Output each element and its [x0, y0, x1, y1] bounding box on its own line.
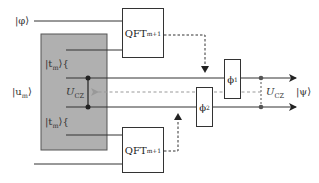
phi2-label: ϕ: [199, 102, 206, 113]
phi1-sub: 1: [234, 76, 238, 83]
ucz-inner-label: UCZ: [66, 87, 84, 101]
output-psi-label: |ψ⟩: [296, 87, 311, 97]
input-um-label: |um⟩: [12, 87, 32, 101]
qft-gate-top: QFTm+1: [122, 8, 164, 58]
qft-top-label: QFT: [125, 28, 147, 39]
ucz-outer-label: UCZ: [266, 87, 284, 101]
phi1-gate: ϕ1: [224, 59, 241, 99]
circuit-diagram: QFTm+1 QFTm+1 ϕ1 ϕ2 |φ⟩ |um⟩ |tm⟩{ |tm⟩{…: [0, 0, 319, 183]
um-text: |u: [12, 86, 22, 97]
input-phi-label: |φ⟩: [15, 16, 29, 26]
ucz-inner-sub: CZ: [74, 92, 84, 100]
qft-gate-bottom: QFTm+1: [122, 127, 164, 173]
qft-bottom-label: QFT: [125, 145, 147, 156]
tm-top-label: |tm⟩{: [45, 59, 69, 73]
phi2-gate: ϕ2: [196, 87, 213, 127]
qft-top-sub: m+1: [147, 30, 162, 37]
tm-bottom-label: |tm⟩{: [45, 117, 69, 131]
phi2-sub: 2: [206, 104, 210, 111]
phi1-label: ϕ: [227, 74, 234, 85]
qft-bottom-sub: m+1: [147, 147, 162, 154]
ucz-outer-sub: CZ: [274, 92, 284, 100]
